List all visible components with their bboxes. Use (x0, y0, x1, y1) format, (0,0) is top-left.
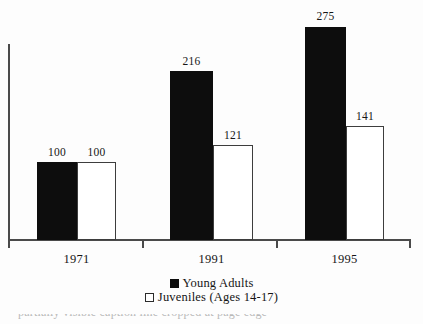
bar-chart-figure: 100 100 1971 216 121 1991 275 141 1995 Y… (0, 0, 423, 324)
bar-young-adults-1971[interactable] (37, 162, 77, 240)
bar-value-young-adults-1995: 275 (305, 10, 346, 23)
x-axis-label-1991: 1991 (170, 252, 253, 267)
legend-swatch-filled-square-icon (170, 279, 179, 288)
x-axis-tick-origin (8, 241, 10, 248)
bar-juveniles-1971[interactable] (77, 162, 116, 240)
bar-young-adults-1991[interactable] (170, 71, 213, 240)
y-axis-line (8, 44, 10, 241)
legend-label-juveniles: Juveniles (Ages 14-17) (158, 290, 278, 304)
bar-value-juveniles-1995: 141 (346, 110, 384, 123)
cropped-caption-line: partially visible caption line cropped a… (18, 314, 413, 324)
x-axis-label-1971: 1971 (37, 252, 116, 267)
legend-item-juveniles[interactable]: Juveniles (Ages 14-17) (145, 290, 278, 304)
legend-swatch-outlined-square-icon (145, 293, 154, 302)
bar-juveniles-1995[interactable] (346, 126, 384, 240)
bar-value-juveniles-1971: 100 (77, 146, 116, 159)
bar-value-young-adults-1991: 216 (170, 55, 213, 68)
legend-label-young-adults: Young Adults (183, 276, 254, 290)
x-axis-label-1995: 1995 (305, 252, 384, 267)
cropped-caption-text: partially visible caption line cropped a… (18, 314, 413, 320)
x-axis-tick-3 (409, 241, 411, 248)
plot-area: 100 100 1971 216 121 1991 275 141 1995 (0, 0, 423, 252)
chart-legend: Young Adults Juveniles (Ages 14-17) (0, 276, 423, 304)
legend-item-young-adults[interactable]: Young Adults (170, 276, 254, 290)
bar-juveniles-1991[interactable] (213, 145, 253, 240)
bar-value-juveniles-1991: 121 (213, 129, 253, 142)
bar-value-young-adults-1971: 100 (37, 146, 77, 159)
x-axis-tick-1 (142, 241, 144, 248)
bar-young-adults-1995[interactable] (305, 27, 346, 240)
x-axis-tick-2 (276, 241, 278, 248)
